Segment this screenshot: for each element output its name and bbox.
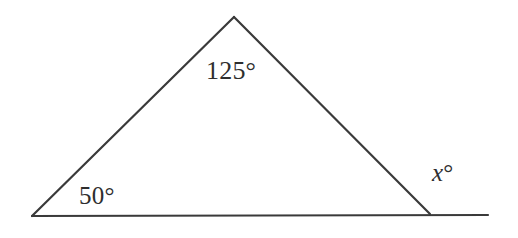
triangle-right-side — [234, 17, 430, 214]
exterior-angle-label: x° — [432, 160, 454, 185]
degree-symbol: ° — [443, 159, 453, 186]
exterior-angle-variable: x — [432, 159, 443, 186]
geometry-figure: 125° 50° x° — [0, 0, 518, 238]
base-line-with-extension — [32, 215, 488, 216]
triangle-left-side — [32, 17, 234, 216]
base-left-angle-label: 50° — [79, 183, 115, 208]
apex-angle-label: 125° — [206, 58, 256, 84]
triangle-diagram-svg — [0, 0, 518, 238]
